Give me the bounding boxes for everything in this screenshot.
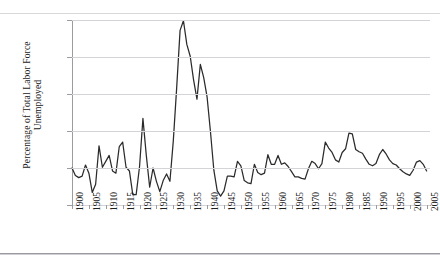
x-tick-mark-1955 xyxy=(258,205,259,209)
x-tick-mark-1995 xyxy=(393,205,394,209)
gridline-20 xyxy=(72,57,430,58)
x-tick-mark-2000 xyxy=(410,205,411,209)
x-tick-label-1925: 1925 xyxy=(160,192,170,211)
y-tick-mark-10 xyxy=(67,131,72,132)
unemployment-line-chart: Percentage of Total Labor Force Unemploy… xyxy=(0,0,440,261)
x-tick-mark-1910 xyxy=(106,205,107,209)
y-tick-mark-5 xyxy=(67,168,72,169)
x-tick-label-1995: 1995 xyxy=(397,192,407,211)
x-tick-label-1910: 1910 xyxy=(110,192,120,211)
y-axis-title-line-1: Percentage of Total Labor Force xyxy=(22,41,33,168)
y-tick-mark-20 xyxy=(67,57,72,58)
y-axis-title-line-2: Unemployed xyxy=(33,80,44,131)
data-series-unemployment xyxy=(72,20,430,205)
x-tick-mark-1925 xyxy=(156,205,157,209)
x-tick-mark-1950 xyxy=(241,205,242,209)
x-tick-label-2005: 2005 xyxy=(431,192,440,211)
x-tick-mark-1970 xyxy=(308,205,309,209)
page-top-rule xyxy=(0,13,440,14)
plot-area xyxy=(72,20,430,205)
x-tick-mark-1905 xyxy=(89,205,90,209)
x-tick-mark-1945 xyxy=(224,205,225,209)
x-tick-label-1985: 1985 xyxy=(363,192,373,211)
x-tick-label-1920: 1920 xyxy=(144,192,154,211)
x-tick-label-1975: 1975 xyxy=(329,192,339,211)
x-tick-mark-1960 xyxy=(275,205,276,209)
y-tick-mark-25 xyxy=(67,20,72,21)
x-tick-label-1915: 1915 xyxy=(127,192,137,211)
gridline-25 xyxy=(72,20,430,21)
x-tick-mark-1985 xyxy=(359,205,360,209)
x-tick-label-1990: 1990 xyxy=(380,192,390,211)
x-tick-label-1970: 1970 xyxy=(312,192,322,211)
x-tick-label-1965: 1965 xyxy=(296,192,306,211)
x-tick-mark-1980 xyxy=(342,205,343,209)
y-tick-mark-15 xyxy=(67,94,72,95)
x-tick-mark-1965 xyxy=(292,205,293,209)
x-tick-label-1940: 1940 xyxy=(211,192,221,211)
x-tick-mark-1935 xyxy=(190,205,191,209)
x-tick-mark-1900 xyxy=(72,205,73,209)
x-tick-mark-1930 xyxy=(173,205,174,209)
x-tick-label-1900: 1900 xyxy=(76,192,86,211)
page-bottom-rule-shadow xyxy=(0,254,440,255)
x-tick-label-1950: 1950 xyxy=(245,192,255,211)
x-tick-mark-1940 xyxy=(207,205,208,209)
x-tick-label-1905: 1905 xyxy=(93,192,103,211)
x-tick-mark-2005 xyxy=(427,205,428,209)
x-tick-mark-1990 xyxy=(376,205,377,209)
gridline-5 xyxy=(72,168,430,169)
x-tick-label-1980: 1980 xyxy=(346,192,356,211)
x-tick-label-1935: 1935 xyxy=(194,192,204,211)
x-tick-label-1955: 1955 xyxy=(262,192,272,211)
x-tick-mark-1915 xyxy=(123,205,124,209)
x-tick-label-1945: 1945 xyxy=(228,192,238,211)
x-tick-label-2000: 2000 xyxy=(414,192,424,211)
x-tick-label-1930: 1930 xyxy=(177,192,187,211)
gridline-10 xyxy=(72,131,430,132)
gridline-15 xyxy=(72,94,430,95)
x-tick-mark-1920 xyxy=(140,205,141,209)
x-tick-mark-1975 xyxy=(325,205,326,209)
x-tick-label-1960: 1960 xyxy=(279,192,289,211)
y-axis-title: Percentage of Total Labor Force Unemploy… xyxy=(16,10,50,200)
